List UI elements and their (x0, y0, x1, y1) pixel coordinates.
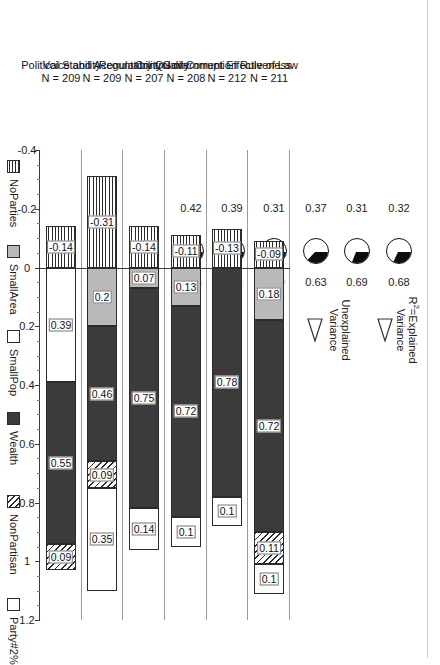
x-axis-minor-tick (37, 223, 40, 224)
segment-value-label: 0.1 (177, 525, 196, 538)
segment-value-label: -0.11 (172, 245, 199, 258)
x-axis (39, 150, 40, 620)
category-labels: Rule of LawN = 211Government Effectivene… (40, 0, 290, 150)
segment-value-label: 0.35 (90, 533, 114, 546)
segment-value-label: 0.13 (174, 280, 198, 293)
legend: NoPartiesSmallAreaSmallPopWealthNonParti… (2, 150, 22, 630)
x-axis-minor-tick (37, 458, 40, 459)
x-axis-minor-tick (37, 253, 40, 254)
x-axis-tick (35, 620, 40, 621)
unexplained-variance-value: 0.31 (347, 202, 368, 214)
pie-slice-unexplained (306, 252, 328, 264)
legend-swatch-smallpop (7, 330, 20, 343)
x-axis-minor-tick (37, 165, 40, 166)
segment-value-label: 0.18 (257, 287, 281, 300)
x-axis-minor-tick (37, 297, 40, 298)
zero-line (40, 268, 290, 269)
x-axis-tick-label: 1 (24, 555, 30, 567)
segment-value-label: 0.39 (49, 318, 73, 331)
x-axis-minor-tick (37, 356, 40, 357)
legend-label-wealth: Wealth (8, 431, 20, 465)
x-axis-tick (35, 326, 40, 327)
legend-label-noparties: NoParties (8, 179, 20, 227)
segment-value-label: 0.11 (257, 542, 281, 555)
x-axis-minor-tick (37, 282, 40, 283)
unexplained-variance-value: 0.37 (305, 202, 326, 214)
segment-value-label: 0.55 (49, 456, 73, 469)
segment-value-label: 0.07 (132, 271, 156, 284)
x-axis-minor-tick (37, 517, 40, 518)
category-separator (289, 150, 290, 620)
legend-swatch-wealth (7, 412, 20, 425)
explained-variance-value: 0.63 (305, 276, 326, 288)
segment-value-label: -0.14 (130, 240, 158, 253)
category-label-political-stability: Political StabilityN = 209 (21, 59, 100, 85)
segment-value-label: 0.46 (90, 387, 114, 400)
pie-row: 0.320.680.310.690.370.630.310.690.390.61… (295, 150, 420, 620)
x-axis-tick (35, 444, 40, 445)
x-axis-minor-tick (37, 179, 40, 180)
x-axis-minor-tick (37, 473, 40, 474)
x-axis-minor-tick (37, 547, 40, 548)
x-axis-minor-tick (37, 341, 40, 342)
x-axis-minor-tick (37, 194, 40, 195)
x-axis-tick-label: 0 (24, 262, 30, 274)
x-axis-minor-tick (37, 238, 40, 239)
unexplained-variance-value: 0.32 (388, 202, 409, 214)
segment-value-label: 0.09 (49, 550, 73, 563)
legend-swatch-nonpartisan (7, 495, 20, 508)
pie-slice-unexplained (352, 252, 370, 264)
x-axis-minor-tick (37, 429, 40, 430)
category-separator (206, 150, 207, 620)
x-axis-minor-tick (37, 400, 40, 401)
segment-value-label: 0.78 (215, 376, 239, 389)
segment-value-label: 0.1 (218, 505, 237, 518)
x-axis-tick (35, 268, 40, 269)
segment-value-label: 0.72 (257, 420, 281, 433)
pie-slice-unexplained (393, 252, 412, 264)
segment-value-label: 0.2 (93, 290, 112, 303)
variance-pie-chart (345, 238, 371, 264)
plot-area: -0.090.180.720.110.1-0.130.780.1-0.110.1… (40, 150, 290, 620)
x-axis-minor-tick (37, 532, 40, 533)
legend-swatch-noparties (7, 160, 20, 173)
x-axis-tick (35, 561, 40, 562)
variance-pie-chart (386, 238, 412, 264)
segment-value-label: -0.09 (255, 248, 283, 261)
x-axis-minor-tick (37, 576, 40, 577)
explained-variance-value: 0.68 (388, 276, 409, 288)
legend-label-smallarea: SmallArea (8, 264, 20, 315)
segment-value-label: -0.14 (47, 240, 75, 253)
x-axis-tick (35, 503, 40, 504)
legend-label-smallpop: SmallPop (8, 349, 20, 396)
legend-label-party: Party#2% (8, 617, 20, 665)
x-axis-minor-tick (37, 605, 40, 606)
category-separator (247, 150, 248, 620)
x-axis-minor-tick (37, 414, 40, 415)
category-name: Political Stability (21, 59, 100, 72)
x-axis-minor-tick (37, 488, 40, 489)
legend-swatch-party (7, 598, 20, 611)
segment-value-label: -0.13 (214, 242, 242, 255)
category-separator (81, 150, 82, 620)
category-separator (122, 150, 123, 620)
segment-value-label: 0.14 (132, 522, 156, 535)
x-axis-tick (35, 385, 40, 386)
legend-label-nonpartisan: NonPartisan (8, 514, 20, 575)
x-axis-minor-tick (37, 370, 40, 371)
category-separator (164, 150, 165, 620)
category-n: N = 209 (21, 72, 100, 85)
x-axis-minor-tick (37, 591, 40, 592)
segment-value-label: -0.31 (89, 215, 117, 228)
variance-pie-chart (303, 238, 329, 264)
segment-value-label: 0.1 (260, 572, 279, 585)
segment-value-label: 0.09 (90, 468, 114, 481)
legend-swatch-smallarea (7, 245, 20, 258)
scan-edge-line-top (427, 0, 428, 658)
explained-variance-value: 0.69 (347, 276, 368, 288)
segment-value-label: 0.75 (132, 392, 156, 405)
x-axis-minor-tick (37, 312, 40, 313)
segment-value-label: 0.72 (174, 405, 198, 418)
